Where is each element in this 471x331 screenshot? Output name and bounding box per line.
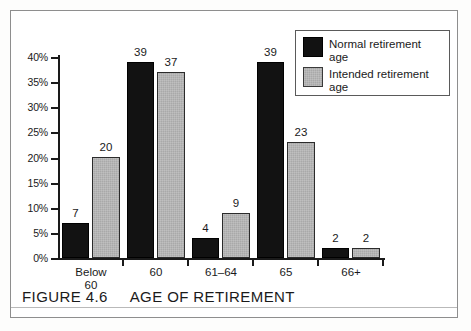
y-axis-label-30: 30% (6, 102, 48, 113)
bar-value-normal-below-60: 7 (62, 208, 89, 220)
bar-value-normal-65: 39 (257, 47, 284, 59)
bar-value-normal-60: 39 (127, 47, 154, 59)
chart-legend: Normal retirement age Intended retiremen… (295, 30, 450, 96)
normal-retirement-swatch-icon (303, 37, 323, 57)
x-category-label-61-64: 61–64 (188, 266, 254, 279)
bar-normal-61-64[interactable] (192, 238, 219, 258)
y-tick-0 (51, 258, 58, 260)
y-axis-label-35: 35% (6, 77, 48, 88)
y-tick-20 (51, 158, 58, 160)
bar-normal-66-plus[interactable] (322, 248, 349, 258)
bar-normal-65[interactable] (257, 62, 284, 258)
y-axis-label-0: 0% (6, 253, 48, 264)
y-tick-10 (51, 208, 58, 210)
bar-intended-65[interactable] (287, 142, 315, 258)
bar-normal-60[interactable] (127, 62, 154, 258)
bar-normal-below-60[interactable] (62, 223, 89, 258)
y-axis-label-10: 10% (6, 203, 48, 214)
y-tick-5 (51, 233, 58, 235)
y-tick-35 (51, 82, 58, 84)
y-tick-40 (51, 57, 58, 59)
y-tick-30 (51, 107, 58, 109)
bar-value-normal-61-64: 4 (192, 223, 219, 235)
y-axis-label-5: 5% (6, 228, 48, 239)
bar-value-intended-65: 23 (287, 127, 315, 139)
bar-intended-61-64[interactable] (222, 213, 250, 258)
bar-value-intended-61-64: 9 (222, 198, 250, 210)
x-category-label-66-plus: 66+ (318, 266, 384, 279)
y-axis-label-15: 15% (6, 178, 48, 189)
y-axis-label-25: 25% (6, 127, 48, 138)
bar-value-intended-60: 37 (157, 57, 185, 69)
bar-intended-66-plus[interactable] (352, 248, 380, 258)
bar-intended-60[interactable] (157, 72, 185, 258)
y-axis-label-40: 40% (6, 52, 48, 63)
y-tick-25 (51, 132, 58, 134)
legend-item-intended-retirement-age[interactable]: Intended retirement age (303, 67, 444, 93)
legend-item-normal-retirement-age[interactable]: Normal retirement age (303, 37, 444, 63)
bar-value-intended-66-plus: 2 (352, 233, 380, 245)
bar-value-normal-66-plus: 2 (322, 233, 349, 245)
legend-label-intended-retirement-age: Intended retirement age (329, 67, 429, 93)
x-axis-line (58, 258, 385, 260)
x-category-label-60: 60 (123, 266, 189, 279)
bar-value-intended-below-60: 20 (92, 142, 120, 154)
y-tick-15 (51, 183, 58, 185)
bar-intended-below-60[interactable] (92, 157, 120, 258)
x-category-label-65: 65 (253, 266, 319, 279)
y-axis-line (58, 55, 60, 260)
intended-retirement-swatch-icon (303, 67, 323, 87)
caption-divider (11, 307, 457, 308)
figure-caption: FIGURE 4.6 AGE OF RETIREMENT (22, 288, 295, 305)
legend-label-normal-retirement-age: Normal retirement age (329, 37, 421, 63)
y-axis-label-20: 20% (6, 153, 48, 164)
